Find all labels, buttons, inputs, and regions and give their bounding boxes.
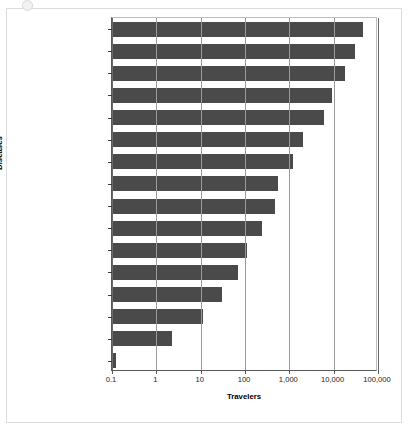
bar-row bbox=[112, 107, 376, 129]
bar bbox=[112, 66, 345, 81]
bar bbox=[112, 287, 222, 302]
x-axis-tick bbox=[378, 370, 379, 374]
x-axis-tick bbox=[245, 370, 246, 374]
gridline bbox=[334, 18, 335, 370]
bar-row bbox=[112, 18, 376, 40]
bar-row bbox=[112, 239, 376, 261]
gridline bbox=[289, 18, 290, 370]
bar-row bbox=[112, 173, 376, 195]
bar bbox=[112, 243, 247, 258]
bar-row bbox=[112, 261, 376, 283]
bar-row bbox=[112, 129, 376, 151]
bar bbox=[112, 154, 293, 169]
bar bbox=[112, 221, 262, 236]
bar-row bbox=[112, 284, 376, 306]
bar-row bbox=[112, 40, 376, 62]
gridline bbox=[245, 18, 246, 370]
bar-row bbox=[112, 151, 376, 173]
x-axis-tick bbox=[201, 370, 202, 374]
plot-area bbox=[111, 17, 377, 371]
bar-rows bbox=[112, 18, 376, 370]
bar-row bbox=[112, 62, 376, 84]
scan-artifact-icon bbox=[22, 0, 33, 11]
x-tick-label: 1,000 bbox=[279, 375, 298, 384]
bar-row bbox=[112, 306, 376, 328]
bar-row bbox=[112, 328, 376, 350]
x-axis-tick-labels: 0.11101001,00010,000100,000 bbox=[0, 375, 408, 389]
x-tick-label: 1 bbox=[153, 375, 157, 384]
bar bbox=[112, 265, 238, 280]
x-tick-label: 0.1 bbox=[106, 375, 117, 384]
bar bbox=[112, 88, 332, 103]
x-tick-label: 100 bbox=[238, 375, 251, 384]
gridline bbox=[201, 18, 202, 370]
bar bbox=[112, 132, 303, 147]
bar-row bbox=[112, 84, 376, 106]
y-axis-title: Diseases bbox=[0, 136, 4, 170]
x-tick-label: 10,000 bbox=[321, 375, 344, 384]
x-axis-tick bbox=[156, 370, 157, 374]
bar bbox=[112, 110, 324, 125]
chart-figure: Any health problemTravelers' diarrheaFel… bbox=[0, 0, 408, 435]
gridline bbox=[112, 18, 113, 370]
bar bbox=[112, 176, 278, 191]
x-tick-label: 10 bbox=[195, 375, 203, 384]
gridline bbox=[378, 18, 379, 370]
x-axis-tick bbox=[334, 370, 335, 374]
x-axis-title: Travelers bbox=[111, 392, 377, 401]
bar bbox=[112, 44, 355, 59]
x-axis-tick bbox=[289, 370, 290, 374]
x-axis-tick bbox=[112, 370, 113, 374]
bar-row bbox=[112, 195, 376, 217]
x-tick-label: 100,000 bbox=[363, 375, 390, 384]
bar bbox=[112, 199, 275, 214]
bar bbox=[112, 331, 172, 346]
bar bbox=[112, 22, 363, 37]
bar-row bbox=[112, 350, 376, 372]
gridline bbox=[156, 18, 157, 370]
bar-row bbox=[112, 217, 376, 239]
